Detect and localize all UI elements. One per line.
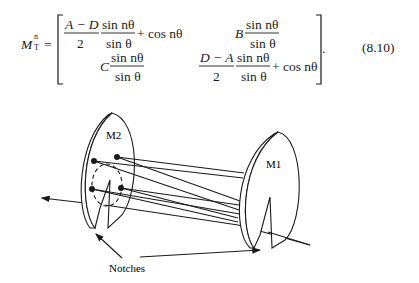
m12-coefficient: B — [235, 27, 243, 41]
m12-sin-denominator: sin θ — [250, 37, 276, 51]
matrix-superscript: n — [34, 33, 38, 41]
label-notches: Notches — [109, 262, 145, 274]
mirror-diagram: M2 M1 Notches — [0, 100, 419, 283]
m11-sin-numerator: sin nθ — [102, 18, 134, 32]
label-m2: M2 — [106, 129, 121, 141]
m22-denominator: 2 — [213, 70, 220, 84]
equation-number: (8.10) — [362, 40, 395, 56]
m11-cos-term: + cos nθ — [137, 27, 183, 41]
m22-sin-denominator: sin θ — [241, 70, 267, 84]
matrix-symbol: M — [21, 38, 32, 52]
herriott-cell-figure: M2 M1 Notches — [0, 100, 419, 283]
m21-coefficient: C — [100, 60, 109, 74]
m11-denominator: 2 — [77, 37, 84, 51]
m21-sin-numerator: sin nθ — [111, 51, 143, 65]
m21-sin-denominator: sin θ — [115, 70, 141, 84]
m11-sin-denominator: sin θ — [106, 37, 132, 51]
m22-sin-numerator: sin nθ — [237, 51, 269, 65]
notch-arrow-m2 — [96, 234, 122, 258]
equation-period: . — [322, 42, 325, 56]
notch-arrow-m1 — [140, 250, 260, 257]
label-m1: M1 — [266, 158, 281, 170]
m11-numerator: A − D — [65, 18, 99, 32]
equals-sign: = — [44, 38, 52, 52]
m12-sin-numerator: sin nθ — [246, 18, 278, 32]
m22-cos-term: + cos nθ — [272, 60, 318, 74]
matrix-subscript: T — [34, 44, 39, 52]
mirror-m1 — [239, 132, 299, 248]
equation-8-10: M n T = A − D 2 sin nθ sin θ + cos nθ B … — [0, 0, 419, 100]
m22-numerator: D − A — [200, 51, 234, 65]
exit-beam-arrow — [42, 198, 85, 203]
